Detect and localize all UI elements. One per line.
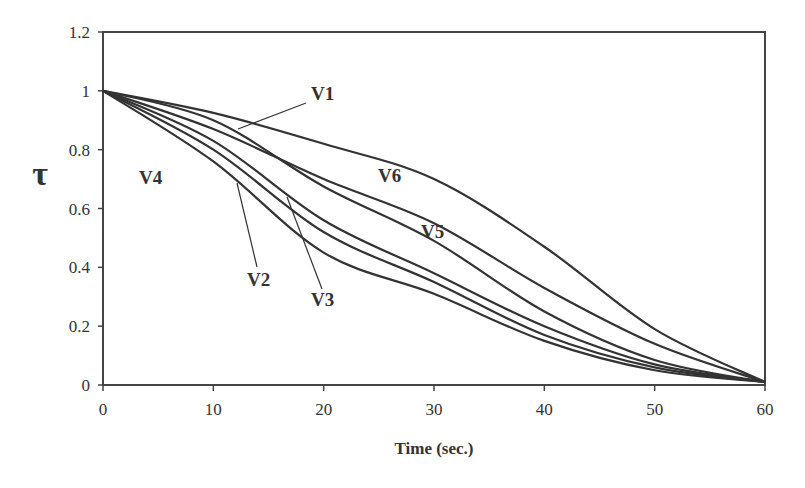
y-axis: 00.20.40.60.811.2: [69, 23, 103, 395]
y-tick-label: 0.2: [69, 317, 90, 336]
x-axis: 0102030405060: [99, 385, 774, 419]
y-tick-label: 0.4: [69, 258, 91, 277]
series-label-v1: V1: [311, 83, 334, 104]
label-leader-line: [238, 103, 306, 129]
series-labels: V1V2V3V4V5V6: [139, 83, 444, 310]
series-label-v4: V4: [139, 167, 163, 188]
y-tick-label: 1: [82, 82, 91, 101]
x-tick-label: 30: [426, 400, 443, 419]
series-label-v6: V6: [378, 165, 401, 186]
series-label-v3: V3: [311, 289, 334, 310]
y-tick-label: 0: [82, 376, 91, 395]
series-label-v5: V5: [421, 221, 444, 242]
x-tick-label: 20: [315, 400, 332, 419]
x-axis-title: Time (sec.): [395, 439, 474, 458]
plot-area: [103, 32, 765, 385]
x-tick-label: 10: [205, 400, 222, 419]
label-leader-line: [287, 197, 322, 289]
y-tick-label: 0.6: [69, 200, 90, 219]
line-chart: 00.20.40.60.811.2 0102030405060 V1V2V3V4…: [0, 0, 805, 488]
y-tick-label: 1.2: [69, 23, 90, 42]
x-tick-label: 40: [536, 400, 553, 419]
x-tick-label: 60: [757, 400, 774, 419]
x-tick-label: 50: [646, 400, 663, 419]
y-tick-label: 0.8: [69, 141, 90, 160]
series-label-v2: V2: [247, 269, 270, 290]
y-axis-title: τ: [32, 155, 48, 192]
x-tick-label: 0: [99, 400, 108, 419]
